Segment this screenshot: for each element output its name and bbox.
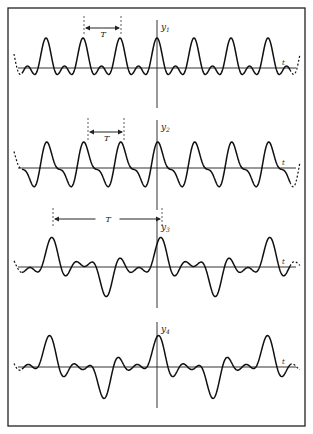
arrowhead-left	[85, 26, 90, 31]
t-label-y4: t	[282, 358, 285, 366]
waveform-continuation-right	[290, 54, 300, 74]
t-label-y2: t	[282, 159, 285, 167]
period-label: T	[101, 30, 107, 39]
y-label-y4: y4	[160, 324, 170, 335]
panel-y4: y4t	[14, 322, 300, 408]
arrowhead-right	[115, 26, 120, 31]
y-label-y3: y3	[160, 222, 170, 233]
waveform-panels: y1tTy2tTy3tTy4t	[14, 16, 300, 408]
panel-y1: y1tT	[14, 16, 300, 108]
waveform-y2	[22, 142, 290, 187]
waveform-continuation-right	[290, 262, 300, 267]
waveform-continuation-left	[14, 54, 22, 74]
arrowhead-left	[89, 130, 94, 135]
period-label: T	[106, 215, 112, 224]
period-label: T	[104, 134, 110, 143]
arrowhead-right	[156, 217, 161, 222]
waveform-continuation-right	[290, 162, 300, 187]
waveform-figure: y1tTy2tTy3tTy4t	[0, 0, 313, 434]
t-label-y3: t	[282, 258, 285, 266]
arrowhead-right	[118, 130, 123, 135]
waveform-continuation-left	[14, 152, 22, 170]
y-label-y1: y1	[160, 22, 170, 33]
waveform-y1	[22, 38, 290, 74]
panel-y2: y2tT	[14, 118, 300, 210]
y-label-y2: y2	[160, 122, 170, 133]
panel-y3: y3tT	[14, 208, 300, 308]
t-label-y1: t	[282, 59, 285, 67]
arrowhead-left	[54, 217, 59, 222]
